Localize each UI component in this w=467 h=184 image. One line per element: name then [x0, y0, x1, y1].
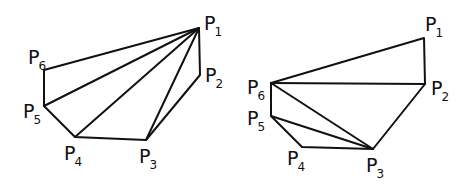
- vertex-label-p4: P4: [287, 147, 305, 174]
- vertex-label-p5: P5: [23, 100, 41, 127]
- vertex-label-p6: P6: [28, 46, 46, 73]
- vertex-label-p4: P4: [64, 142, 82, 169]
- vertex-label-p2: P2: [205, 64, 223, 91]
- vertex-label-p2: P2: [431, 77, 449, 104]
- vertex-label-p6: P6: [247, 76, 265, 103]
- right-polygon-triangulation: P1P2P3P4P5P6: [247, 13, 449, 181]
- left-hexagon-outline: [44, 28, 200, 140]
- diagonal-p6-p2: [271, 83, 425, 84]
- vertex-label-p1: P1: [425, 13, 443, 40]
- diagonal-p1-p5: [44, 28, 199, 106]
- diagonal-p1-p3: [146, 28, 199, 140]
- left-polygon-triangulation: P1P2P3P4P5P6: [23, 12, 223, 172]
- diagonal-p6-p3: [271, 83, 373, 149]
- diagram-canvas: P1P2P3P4P5P6 P1P2P3P4P5P6: [0, 0, 467, 184]
- vertex-label-p3: P3: [366, 154, 384, 181]
- vertex-label-p1: P1: [204, 12, 222, 39]
- vertex-label-p3: P3: [139, 145, 157, 172]
- vertex-label-p5: P5: [247, 107, 265, 134]
- triangulation-diagram: P1P2P3P4P5P6 P1P2P3P4P5P6: [0, 0, 467, 184]
